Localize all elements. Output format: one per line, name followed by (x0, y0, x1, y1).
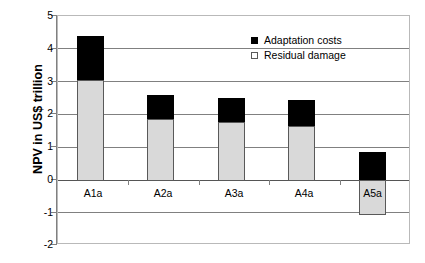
x-tick-mark-3 (340, 180, 341, 185)
legend-label-adaptation-costs: Adaptation costs (264, 35, 342, 46)
x-tick-mark-1 (199, 180, 200, 185)
bar-segment-adaptation-a2a[interactable] (147, 95, 174, 120)
y-tick-label-1: 1 (29, 141, 53, 152)
x-category-label-a3a: A3a (199, 187, 269, 199)
x-category-label-a5a: A5a (359, 187, 386, 199)
bar-segment-adaptation-a1a[interactable] (77, 36, 104, 81)
bar-segment-adaptation-a3a[interactable] (218, 98, 245, 123)
y-tick-label-4: 4 (29, 43, 53, 54)
y-tick-label-0: 0 (29, 174, 53, 185)
bar-segment-residual-a3a[interactable] (218, 122, 245, 181)
y-tick-label-neg2: -2 (29, 239, 53, 250)
bar-group-a3a (218, 16, 245, 243)
bar-segment-residual-a2a[interactable] (147, 119, 174, 181)
chart-container: NPV in US$ trillion 5 4 3 2 1 0 -1 -2 (0, 0, 425, 263)
legend-swatch-filled-square-icon (251, 37, 258, 44)
bar-segment-adaptation-a5a[interactable] (359, 152, 386, 181)
x-tick-mark-0 (128, 180, 129, 185)
plot-area: A1a A2a A3a A4a A5a Adaptation costs Res… (57, 15, 410, 244)
y-tick-label-2: 2 (29, 108, 53, 119)
y-tick-label-5: 5 (29, 10, 53, 21)
y-tick-label-neg1: -1 (29, 207, 53, 218)
bar-group-a1a (77, 16, 104, 243)
legend-label-residual-damage: Residual damage (264, 50, 346, 61)
legend-item-residual-damage[interactable]: Residual damage (251, 49, 391, 62)
bar-group-a2a (147, 16, 174, 243)
legend-item-adaptation-costs[interactable]: Adaptation costs (251, 34, 391, 47)
x-category-label-a4a: A4a (269, 187, 339, 199)
bar-segment-residual-a4a[interactable] (288, 126, 315, 181)
legend-swatch-open-square-icon (251, 52, 258, 59)
x-category-label-a1a: A1a (58, 187, 128, 199)
y-tick-label-3: 3 (29, 76, 53, 87)
bar-segment-adaptation-a4a[interactable] (288, 100, 315, 127)
x-tick-mark-2 (269, 180, 270, 185)
chart-legend: Adaptation costs Residual damage (251, 34, 391, 64)
x-category-label-a2a: A2a (128, 187, 198, 199)
bar-segment-residual-a1a[interactable] (77, 80, 104, 181)
